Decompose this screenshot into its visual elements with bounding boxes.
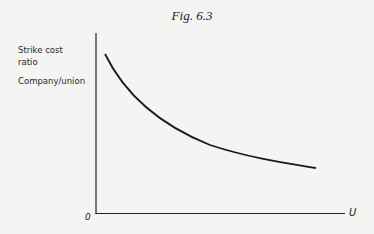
plot-area — [0, 0, 374, 234]
cost-ratio-curve — [105, 54, 316, 168]
